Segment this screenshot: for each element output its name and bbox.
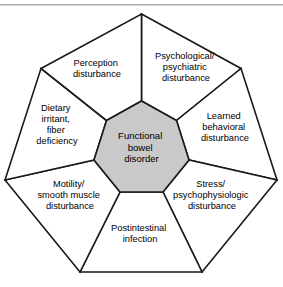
figure-root: Psychological/ psychiatric disturbance L…	[0, 0, 283, 287]
sector-label-learned-behavioral-disturbance: Learned behavioral disturbance	[201, 111, 249, 143]
heptagon-diagram: Psychological/ psychiatric disturbance L…	[0, 0, 283, 287]
sector-label-psychological-psychiatric-disturbance: Psychological/ psychiatric disturbance	[155, 51, 217, 83]
sector-label-perception-disturbance: Perception disturbance	[73, 58, 121, 79]
